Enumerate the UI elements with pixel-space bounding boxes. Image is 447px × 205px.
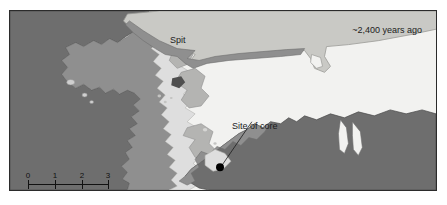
label-spit: Spit [170, 35, 186, 45]
scale-tick-2 [82, 180, 83, 189]
shoal-4 [203, 128, 207, 132]
figure-paleogeographic-map: Spit Site of core ~2,400 years ago 0 1 2… [0, 0, 447, 205]
scale-tick-label-1: 1 [53, 171, 57, 180]
shoal-1 [158, 95, 162, 98]
shoal-2 [164, 101, 167, 103]
scale-tick-1 [55, 180, 56, 189]
scale-tick-3 [108, 180, 109, 189]
scale-bar-axis [28, 184, 108, 185]
label-site-of-core: Site of core [232, 121, 278, 131]
scale-tick-0 [28, 180, 29, 189]
shoal-3 [170, 97, 173, 99]
scale-tick-label-3: 3 [106, 171, 110, 180]
shoal-5 [213, 142, 216, 145]
pond-2 [82, 93, 87, 97]
map-canvas [10, 11, 436, 190]
scale-bar: 0 1 2 3 kilometers [25, 171, 111, 191]
pond-3 [90, 100, 94, 103]
core-site-marker [216, 163, 224, 171]
scale-tick-label-0: 0 [26, 171, 30, 180]
scale-tick-label-2: 2 [80, 171, 84, 180]
label-age-caption: ~2,400 years ago [352, 25, 422, 35]
pond-1 [67, 79, 75, 85]
map-frame: Spit Site of core ~2,400 years ago 0 1 2… [9, 10, 437, 191]
